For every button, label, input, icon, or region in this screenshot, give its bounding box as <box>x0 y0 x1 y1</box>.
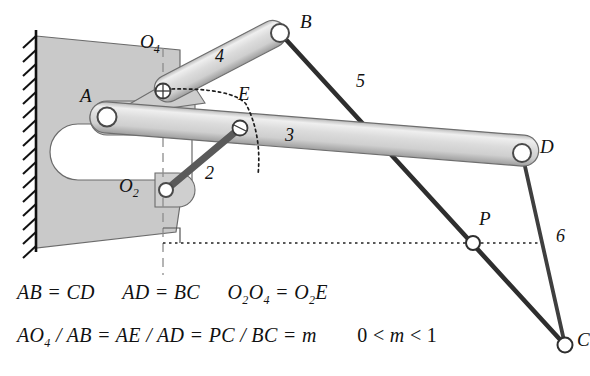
point-label-a: A <box>80 86 92 105</box>
eq2-zero: 0 <box>357 324 367 346</box>
point-label-o2-subscript: 2 <box>133 186 139 200</box>
point-label-o2: O2 <box>119 176 139 199</box>
eq1-o-2-sub: 4 <box>263 293 269 307</box>
eq2-equals-3: = <box>283 324 297 346</box>
eq2-slash-1: / <box>56 324 62 346</box>
joint-pin-e <box>233 121 248 136</box>
eq2-a: A <box>17 324 30 346</box>
point-label-o2-letter: O <box>119 175 133 196</box>
eq1-ad: AD <box>122 281 149 303</box>
eq1-equals-2: = <box>155 281 169 303</box>
joint-pin-c <box>558 338 573 353</box>
link-number-2: 2 <box>205 164 214 182</box>
eq2-lt-2: < <box>410 324 422 346</box>
wall-hatching <box>23 36 36 258</box>
ground-bracket <box>36 36 195 248</box>
point-label-o4: O4 <box>140 32 160 55</box>
point-label-b: B <box>300 12 312 31</box>
point-label-c: C <box>577 330 590 349</box>
wall-fixed-support <box>23 30 36 258</box>
point-label-p: P <box>479 209 491 228</box>
eq2-one: 1 <box>427 324 437 346</box>
eq2-ae-e: E <box>128 324 141 346</box>
eq1-bc: BC <box>174 281 200 303</box>
eq1-cd: CD <box>66 281 94 303</box>
joint-pin-p <box>466 236 480 250</box>
point-label-e: E <box>238 84 250 103</box>
eq2-ae-a: A <box>116 324 129 346</box>
eq2-equals-1: = <box>97 324 111 346</box>
point-label-o4-subscript: 4 <box>154 42 160 56</box>
link-6-bar <box>522 153 565 345</box>
eq1-o-2: O <box>249 281 264 303</box>
point-label-d: D <box>540 137 554 156</box>
eq2-m-2: m <box>390 324 405 346</box>
joint-pin-d <box>513 144 531 162</box>
joint-pin-o2 <box>159 183 173 197</box>
eq2-o: O <box>30 324 45 346</box>
eq2-m: m <box>302 324 317 346</box>
eq2-ad: AD <box>157 324 184 346</box>
link-number-3: 3 <box>285 126 294 144</box>
eq2-slash-3: / <box>240 324 246 346</box>
eq1-o-3: O <box>294 281 309 303</box>
equation-line-1: AB = CD AD = BC O2O4 = O2E <box>17 281 328 308</box>
eq2-lt-1: < <box>373 324 385 346</box>
eq2-o-sub: 4 <box>44 336 50 350</box>
joint-pin-a <box>98 108 117 127</box>
link-number-6: 6 <box>556 227 565 245</box>
eq2-slash-2: / <box>146 324 152 346</box>
point-label-o4-letter: O <box>140 31 154 52</box>
eq2-ab: AB <box>67 324 92 346</box>
joint-pin-o4 <box>156 84 171 99</box>
eq1-equals-3: = <box>275 281 289 303</box>
eq2-equals-2: = <box>190 324 204 346</box>
eq1-equals-1: = <box>47 281 61 303</box>
eq2-pc-p: P <box>209 324 222 346</box>
eq2-pc-c: C <box>221 324 235 346</box>
eq1-e: E <box>315 281 328 303</box>
link-number-4: 4 <box>215 47 224 65</box>
eq1-o-1: O <box>228 281 243 303</box>
eq2-bc: BC <box>251 324 277 346</box>
joint-pin-b <box>271 24 289 42</box>
equation-line-2: AO4 / AB = AE / AD = PC / BC = m 0 < m < <box>17 324 437 351</box>
eq1-ab: AB <box>17 281 42 303</box>
link-number-5: 5 <box>356 72 365 90</box>
